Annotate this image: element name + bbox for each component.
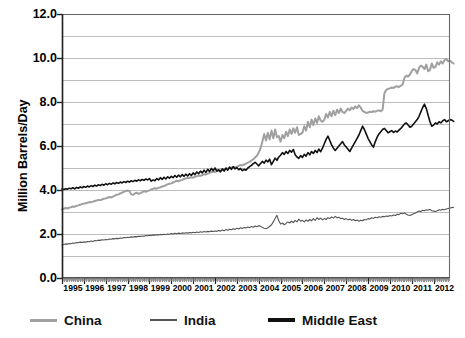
legend-item-middle-east[interactable]: Middle East <box>268 310 377 330</box>
chart-legend: ChinaIndiaMiddle East <box>0 310 465 332</box>
legend-label: China <box>64 313 102 328</box>
y-tick-label: 6.0 <box>5 140 57 152</box>
y-tick-label: 4.0 <box>5 184 57 196</box>
legend-item-china[interactable]: China <box>30 310 102 330</box>
oil-consumption-line-chart: Million Barrels/Day 0.02.04.06.08.010.01… <box>0 0 465 338</box>
y-tick-label: 10.0 <box>5 52 57 64</box>
legend-item-india[interactable]: India <box>150 310 216 330</box>
y-tick-label: 8.0 <box>5 96 57 108</box>
y-axis-ticks <box>57 15 62 279</box>
x-tick-label: 2012 <box>432 283 458 293</box>
x-axis-tick-labels: 1995199619971998199920002001200220032004… <box>0 283 465 297</box>
y-tick-label: 2.0 <box>5 228 57 240</box>
legend-label: India <box>184 313 216 328</box>
legend-swatch-icon <box>150 319 177 321</box>
legend-swatch-icon <box>268 318 295 321</box>
y-tick-label: 12.0 <box>5 8 57 20</box>
legend-swatch-icon <box>30 319 57 322</box>
legend-label: Middle East <box>302 313 377 328</box>
